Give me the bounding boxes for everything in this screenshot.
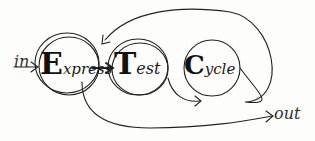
input-label: in (14, 52, 29, 71)
express-rest: xpress (63, 60, 113, 78)
test-node: Test (114, 46, 160, 81)
output-label: out (274, 104, 300, 123)
test-to-cycle-arrow (168, 78, 201, 106)
test-rest: est (136, 59, 160, 78)
cycle-rest: ycle (205, 60, 236, 78)
express-test-cycle-diagram: in Express Test Cycle out (0, 0, 315, 141)
output-arrow (82, 82, 273, 128)
express-node: Express (40, 46, 112, 81)
test-initial: T (114, 46, 136, 81)
cycle-node: Cycle (184, 50, 235, 80)
express-initial: E (40, 46, 63, 81)
cycle-initial: C (184, 50, 205, 80)
